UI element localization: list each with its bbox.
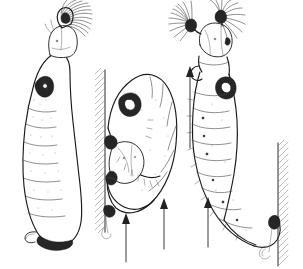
attachment-thread-right xyxy=(269,228,272,252)
proleg-oval-core-right xyxy=(221,82,231,92)
substrate-hatching-right xyxy=(278,136,288,266)
anal-papillae-middle xyxy=(102,228,111,239)
abdominal-segments-left xyxy=(23,108,65,217)
labral-fan-root-left xyxy=(61,13,70,24)
body-stipple-right xyxy=(212,104,247,231)
posterior-circlet-right xyxy=(268,215,280,229)
head-eyespot-middle-2 xyxy=(134,156,136,158)
head-capsule-left xyxy=(49,26,78,58)
collar-crease-right xyxy=(199,62,229,65)
abdominal-segments-right xyxy=(192,92,252,228)
head-eyespot-right xyxy=(214,38,217,41)
lateral-setae-right xyxy=(187,99,238,240)
abdominal-segments-middle xyxy=(149,77,176,191)
head-mandible-left xyxy=(45,24,51,33)
labral-fan-root-a-right xyxy=(185,19,196,32)
thoracic-proleg-middle xyxy=(105,136,118,150)
head-mandible-left-2 xyxy=(51,20,54,30)
thorax-collar-right-2 xyxy=(227,57,229,75)
panel-right-larva xyxy=(169,0,288,266)
figure-root: Blackfly larvae attachment and feeding p… xyxy=(0,0,303,269)
blackfly-larvae-illustration: Blackfly larvae attachment and feeding p… xyxy=(0,0,303,269)
substrate-hatching-middle xyxy=(95,64,105,242)
proleg-spot-left xyxy=(43,84,48,89)
panel-left-larva xyxy=(23,0,92,250)
anal-papillae-left xyxy=(25,232,36,243)
body-stipple-left xyxy=(30,100,62,211)
head-eyespot-middle xyxy=(123,157,125,159)
larva-posterior-right-2 xyxy=(224,220,256,245)
labral-fan-rays-left-right-panel xyxy=(169,1,192,41)
flow-arrow-right-outer xyxy=(204,197,212,247)
flow-arrow-middle-left xyxy=(122,213,130,262)
posterior-circlet-left xyxy=(37,236,73,250)
anal-papillae-right-2 xyxy=(262,249,265,256)
thorax-collar-right xyxy=(199,56,202,72)
attachment-thread-middle xyxy=(106,216,108,233)
proleg-oval-core-middle xyxy=(125,99,136,110)
posterior-circlet-middle xyxy=(104,205,116,217)
head-eyespot-left xyxy=(56,40,59,43)
flow-arrow-middle-right xyxy=(160,198,168,249)
panel-middle-larva xyxy=(95,64,177,242)
anal-papillae-right xyxy=(259,246,270,259)
